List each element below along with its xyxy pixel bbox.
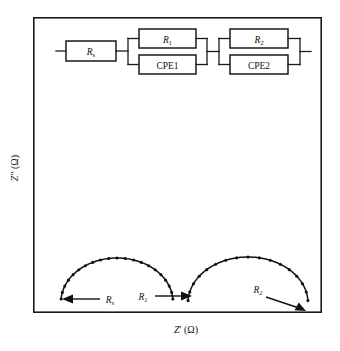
data-point (288, 268, 291, 271)
data-point (192, 282, 195, 285)
data-point (224, 259, 227, 262)
annotation-label-rs-subscript: s (112, 299, 115, 306)
annotation-label-rs: Rs (105, 295, 115, 306)
annotation-arrow-r2-line (266, 297, 299, 308)
data-point (84, 264, 87, 267)
data-point (99, 258, 102, 261)
data-point (107, 257, 110, 260)
impedance-arc-1 (61, 258, 173, 299)
annotation-arrow-rs-head (62, 295, 73, 304)
annotation-label-r1-subscript: 1 (144, 296, 147, 303)
y-axis-label-prime: " (9, 171, 20, 175)
component-label-r2-subscript: 2 (260, 39, 263, 46)
annotation-label-r2-subscript: 2 (259, 289, 263, 296)
data-point (295, 275, 298, 278)
equivalent-circuit-diagram: Rs R1 CPE1 R2 CPE2 (56, 29, 311, 74)
data-point (306, 299, 309, 302)
component-label-rs-subscript: s (93, 51, 96, 58)
annotation-label-r1: R1 (137, 292, 147, 303)
data-point (63, 285, 66, 288)
data-point (159, 273, 162, 276)
data-point (188, 290, 191, 293)
data-point (72, 273, 75, 276)
data-point (170, 291, 173, 294)
x-axis-label: Z'(Ω) (174, 324, 198, 336)
data-point (171, 297, 174, 300)
impedance-arc-2 (188, 257, 308, 301)
data-point (258, 256, 261, 259)
data-point (77, 268, 80, 271)
component-label-cpe1: CPE1 (156, 61, 178, 71)
data-point (91, 261, 94, 264)
data-point (205, 268, 208, 271)
data-point (147, 264, 150, 267)
x-axis-label-prime: ' (180, 324, 182, 335)
figure-canvas: Rs R1 CPE1 R2 CPE2 Rs R1 R2 (0, 0, 340, 351)
data-point (279, 263, 282, 266)
data-point (301, 282, 304, 285)
data-point (154, 268, 157, 271)
data-point (140, 261, 143, 264)
data-point (235, 256, 238, 259)
impedance-arc-1-markers (60, 256, 175, 300)
data-point (198, 275, 201, 278)
data-point (214, 263, 217, 266)
component-label-cpe2: CPE2 (248, 61, 270, 71)
annotation-label-r2: R2 (252, 285, 263, 296)
data-point (168, 285, 171, 288)
data-point (187, 299, 190, 302)
data-point (61, 291, 64, 294)
data-point (305, 290, 308, 293)
component-label-r1-subscript: 1 (169, 39, 172, 46)
nyquist-figure: Rs R1 CPE1 R2 CPE2 Rs R1 R2 (0, 0, 340, 351)
plot-annotations: Rs R1 R2 (62, 285, 306, 311)
data-point (246, 255, 249, 258)
data-point (67, 279, 70, 282)
y-axis-label-unit: (Ω) (9, 155, 21, 169)
data-point (164, 279, 167, 282)
data-point (132, 258, 135, 261)
data-point (269, 259, 272, 262)
data-point (115, 256, 118, 259)
x-axis-label-unit: (Ω) (184, 324, 198, 336)
y-axis-label: Z"(Ω) (9, 155, 21, 181)
impedance-arc-2-markers (187, 255, 310, 302)
data-point (124, 257, 127, 260)
